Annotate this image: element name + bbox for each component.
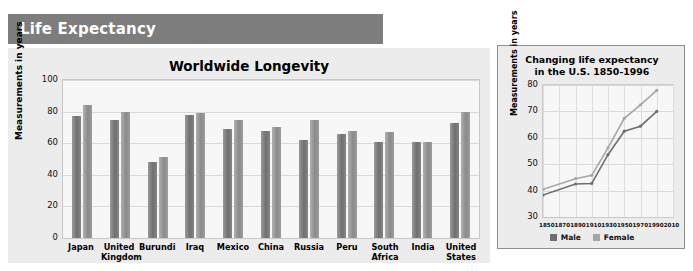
x-tick-label: 1950 bbox=[617, 222, 633, 228]
x-tick-label: Russia bbox=[291, 242, 327, 270]
data-point-female bbox=[655, 89, 658, 92]
bar-group bbox=[261, 80, 281, 238]
bar-female bbox=[196, 113, 205, 238]
bar-group bbox=[299, 80, 319, 238]
bar-female bbox=[234, 120, 243, 239]
line-series-male bbox=[543, 111, 657, 195]
bar-group bbox=[185, 80, 205, 238]
bar-chart-y-axis-label: Measurements in years bbox=[14, 21, 24, 140]
gridline-vertical bbox=[673, 85, 674, 217]
bar-chart-panel: Worldwide Longevity Measurements in year… bbox=[8, 48, 490, 263]
x-tick-label: 1990 bbox=[648, 222, 664, 228]
bar-male bbox=[148, 162, 157, 238]
bar-male bbox=[374, 142, 383, 238]
line-chart-title-line2: in the U.S. 1850-1996 bbox=[498, 66, 686, 78]
page-header-banner: Life Expectancy bbox=[8, 14, 383, 44]
data-point-male bbox=[655, 110, 658, 113]
bar-male bbox=[412, 142, 421, 238]
bar-group bbox=[374, 80, 394, 238]
x-tick-label: 1870 bbox=[555, 222, 571, 228]
x-tick-label: Burundi bbox=[139, 242, 175, 270]
x-tick-label: 2010 bbox=[664, 222, 680, 228]
y-tick-label: 80 bbox=[527, 79, 538, 89]
bar-chart-y-ticks: 020406080100 bbox=[30, 79, 58, 239]
x-tick-label: South Africa bbox=[367, 242, 403, 270]
x-tick-label: India bbox=[405, 242, 441, 270]
data-point-female bbox=[639, 103, 642, 106]
line-chart-legend-item[interactable]: Female bbox=[593, 233, 634, 242]
y-tick-label: 30 bbox=[527, 211, 538, 221]
bar-male bbox=[337, 134, 346, 238]
bar-chart-bars bbox=[63, 80, 479, 238]
bar-female bbox=[348, 131, 357, 238]
y-tick-label: 60 bbox=[47, 137, 58, 147]
x-tick-label: 1970 bbox=[632, 222, 648, 228]
bar-female bbox=[385, 132, 394, 238]
line-chart-y-ticks: 304050607080 bbox=[516, 84, 538, 218]
bar-male bbox=[185, 115, 194, 238]
bar-group bbox=[148, 80, 168, 238]
data-point-male bbox=[639, 125, 642, 128]
data-point-male bbox=[590, 182, 593, 185]
x-tick-label: Japan bbox=[63, 242, 99, 270]
x-tick-label: United Kingdom bbox=[101, 242, 137, 270]
x-tick-label: 1910 bbox=[586, 222, 602, 228]
bar-female bbox=[461, 112, 470, 238]
y-tick-label: 20 bbox=[47, 200, 58, 210]
x-tick-label: Mexico bbox=[215, 242, 251, 270]
bar-group bbox=[72, 80, 92, 238]
legend-swatch-female bbox=[593, 234, 600, 241]
data-point-male bbox=[606, 153, 609, 156]
bar-male bbox=[72, 116, 81, 238]
bar-female bbox=[272, 127, 281, 238]
line-chart-plot-area bbox=[542, 84, 674, 218]
legend-label: Male bbox=[561, 233, 581, 242]
bar-female bbox=[310, 120, 319, 239]
y-tick-label: 50 bbox=[527, 158, 538, 168]
x-tick-label: China bbox=[253, 242, 289, 270]
page-title: Life Expectancy bbox=[8, 20, 156, 38]
data-point-female bbox=[590, 174, 593, 177]
bar-female bbox=[159, 157, 168, 238]
y-tick-label: 70 bbox=[527, 105, 538, 115]
bar-chart-title: Worldwide Longevity bbox=[8, 58, 490, 74]
legend-swatch-male bbox=[550, 234, 557, 241]
bar-group bbox=[450, 80, 470, 238]
y-tick-label: 60 bbox=[527, 132, 538, 142]
line-chart-legend-item[interactable]: Male bbox=[550, 233, 581, 242]
x-tick-label: 1890 bbox=[570, 222, 586, 228]
bar-male bbox=[450, 123, 459, 238]
bar-male bbox=[261, 131, 270, 238]
bar-female bbox=[423, 142, 432, 238]
bar-male bbox=[299, 140, 308, 238]
x-tick-label: 1930 bbox=[601, 222, 617, 228]
line-chart-title: Changing life expectancy in the U.S. 185… bbox=[498, 54, 686, 78]
line-chart-x-axis-labels: 185018701890191019301950197019902010 bbox=[539, 222, 679, 228]
line-chart-legend: MaleFemale bbox=[498, 233, 686, 242]
line-chart-series-svg bbox=[543, 85, 673, 217]
bar-group bbox=[337, 80, 357, 238]
x-tick-label: 1850 bbox=[539, 222, 555, 228]
bar-male bbox=[223, 129, 232, 238]
data-point-female bbox=[606, 146, 609, 149]
data-point-female bbox=[623, 117, 626, 120]
bar-female bbox=[121, 112, 130, 238]
bar-female bbox=[83, 105, 92, 238]
y-tick-label: 80 bbox=[47, 106, 58, 116]
bar-chart-plot-area bbox=[62, 79, 480, 239]
y-tick-label: 40 bbox=[527, 185, 538, 195]
data-point-male bbox=[574, 182, 577, 185]
data-point-female bbox=[574, 177, 577, 180]
y-tick-label: 0 bbox=[53, 232, 58, 242]
x-tick-label: United States bbox=[443, 242, 479, 270]
x-tick-label: Iraq bbox=[177, 242, 213, 270]
legend-label: Female bbox=[604, 233, 634, 242]
bar-chart-x-axis-labels: JapanUnited KingdomBurundiIraqMexicoChin… bbox=[62, 242, 480, 270]
bar-group bbox=[412, 80, 432, 238]
x-tick-label: Peru bbox=[329, 242, 365, 270]
bar-group bbox=[223, 80, 243, 238]
bar-group bbox=[110, 80, 130, 238]
data-point-male bbox=[623, 130, 626, 133]
y-tick-label: 100 bbox=[42, 74, 58, 84]
bar-male bbox=[110, 120, 119, 239]
